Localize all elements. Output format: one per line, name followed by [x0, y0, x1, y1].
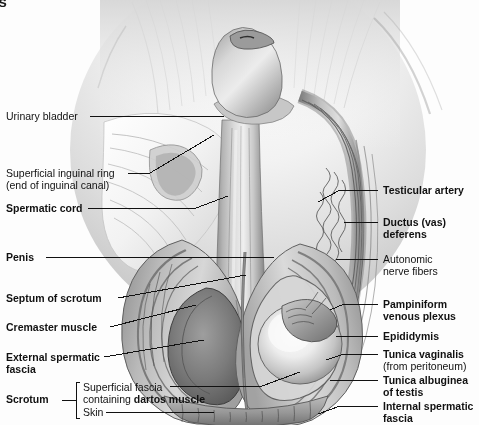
label-autonomic-nerve-fibers-sub: nerve fibers — [383, 265, 438, 277]
label-scrotum: Scrotum — [6, 394, 49, 406]
label-testicular-artery-text: Testicular artery — [383, 184, 464, 196]
label-tunica-vaginalis-text: Tunica vaginalis — [383, 348, 464, 360]
label-tunica-vaginalis: Tunica vaginalis (from peritoneum) — [383, 349, 466, 372]
label-tunica-vaginalis-sub: (from peritoneum) — [383, 360, 466, 372]
label-skin-text: Skin — [83, 406, 103, 418]
label-pampiniform-venous-plexus-sub: venous plexus — [383, 310, 456, 322]
cropped-heading-fragment: es — [0, 0, 7, 10]
label-external-spermatic-fascia-sub: fascia — [6, 363, 36, 375]
label-penis: Penis — [6, 252, 34, 264]
label-tunica-albuginea-of-testis: Tunica albuginea of testis — [383, 375, 468, 398]
label-internal-spermatic-fascia: Internal spermatic fascia — [383, 401, 473, 424]
label-tunica-albuginea-sub: of testis — [383, 386, 423, 398]
label-cremaster-muscle-text: Cremaster muscle — [6, 321, 97, 333]
label-penis-text: Penis — [6, 251, 34, 263]
label-ductus-vas-deferens: Ductus (vas) deferens — [383, 217, 446, 240]
label-ductus-vas-deferens-text: Ductus (vas) — [383, 216, 446, 228]
label-pampiniform-venous-plexus: Pampiniform venous plexus — [383, 299, 456, 322]
label-autonomic-nerve-fibers: Autonomic nerve fibers — [383, 254, 438, 277]
label-urinary-bladder: Urinary bladder — [6, 111, 78, 123]
label-testicular-artery: Testicular artery — [383, 185, 464, 197]
label-epididymis-text: Epididymis — [383, 330, 439, 342]
label-tunica-albuginea-text: Tunica albuginea — [383, 374, 468, 386]
label-superficial-fascia-line1: Superficial fascia — [83, 381, 162, 393]
label-autonomic-nerve-fibers-text: Autonomic — [383, 253, 433, 265]
label-ductus-vas-deferens-sub: deferens — [383, 228, 427, 240]
label-urinary-bladder-text: Urinary bladder — [6, 110, 78, 122]
label-scrotum-text: Scrotum — [6, 393, 49, 405]
label-superficial-inguinal-ring-sub: (end of inguinal canal) — [6, 179, 109, 191]
label-spermatic-cord: Spermatic cord — [6, 203, 82, 215]
anatomy-figure-page: es Urinary bladder Superficial inguinal … — [0, 0, 479, 425]
label-superficial-inguinal-ring: Superficial inguinal ring (end of inguin… — [6, 168, 115, 191]
label-superficial-inguinal-ring-text: Superficial inguinal ring — [6, 167, 115, 179]
label-dartos-muscle: dartos muscle — [134, 393, 205, 405]
label-epididymis: Epididymis — [383, 331, 439, 343]
label-septum-of-scrotum: Septum of scrotum — [6, 293, 102, 305]
label-spermatic-cord-text: Spermatic cord — [6, 202, 82, 214]
label-external-spermatic-fascia: External spermatic fascia — [6, 352, 100, 375]
label-external-spermatic-fascia-text: External spermatic — [6, 351, 100, 363]
label-internal-spermatic-fascia-sub: fascia — [383, 412, 413, 424]
label-superficial-fascia-line2-pre: containing — [83, 393, 134, 405]
label-septum-of-scrotum-text: Septum of scrotum — [6, 292, 102, 304]
label-cremaster-muscle: Cremaster muscle — [6, 322, 97, 334]
label-skin: Skin — [83, 407, 103, 419]
label-pampiniform-venous-plexus-text: Pampiniform — [383, 298, 447, 310]
label-internal-spermatic-fascia-text: Internal spermatic — [383, 400, 473, 412]
label-superficial-fascia-dartos: Superficial fascia containing dartos mus… — [83, 382, 205, 405]
